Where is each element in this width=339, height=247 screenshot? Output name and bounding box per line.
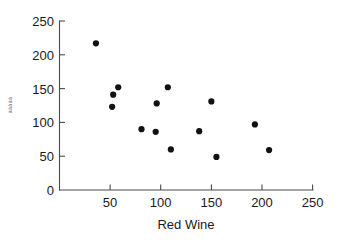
- x-axis-title: Red Wine: [157, 217, 214, 232]
- data-point: [208, 98, 214, 104]
- data-point: [213, 154, 219, 160]
- data-point: [93, 40, 99, 46]
- data-point: [266, 147, 272, 153]
- x-tick-label-200: 200: [251, 195, 273, 210]
- x-tick-label-100: 100: [150, 195, 172, 210]
- data-point: [154, 100, 160, 106]
- data-point: [109, 104, 115, 110]
- data-point: [115, 84, 121, 90]
- data-point: [110, 92, 116, 98]
- data-point: [252, 121, 258, 127]
- y-axis-title: ààààà: [7, 97, 13, 113]
- y-tick-label-150: 150: [32, 82, 54, 97]
- data-point: [138, 126, 144, 132]
- x-tick-label-50: 50: [103, 195, 117, 210]
- y-tick-label-0: 0: [47, 183, 54, 198]
- x-tick-label-250: 250: [302, 195, 324, 210]
- y-tick-label-50: 50: [40, 149, 54, 164]
- data-point: [165, 84, 171, 90]
- data-point: [153, 129, 159, 135]
- y-tick-label-250: 250: [32, 14, 54, 29]
- scatter-chart: 250 200 150 100 50 0 50 100 150 200 250 …: [0, 0, 339, 247]
- data-points-group: [93, 40, 272, 160]
- data-point: [196, 128, 202, 134]
- data-point: [168, 146, 174, 152]
- x-tick-label-150: 150: [201, 195, 223, 210]
- y-tick-label-100: 100: [32, 115, 54, 130]
- y-tick-label-200: 200: [32, 48, 54, 63]
- plot-area: 250 200 150 100 50 0 50 100 150 200 250 …: [0, 0, 339, 247]
